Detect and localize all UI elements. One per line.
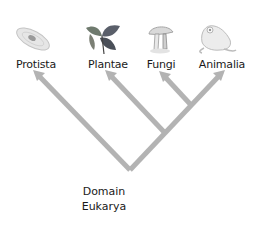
branch-plantae [112, 77, 165, 133]
branch-animalia [130, 77, 218, 170]
branch-protista [40, 77, 130, 170]
branch-fungi [166, 78, 191, 105]
root-label-line1: Domain [82, 184, 127, 199]
root-label-line2: Eukarya [82, 199, 127, 214]
root-label: Domain Eukarya [82, 184, 127, 214]
cladogram-tree [0, 0, 257, 233]
